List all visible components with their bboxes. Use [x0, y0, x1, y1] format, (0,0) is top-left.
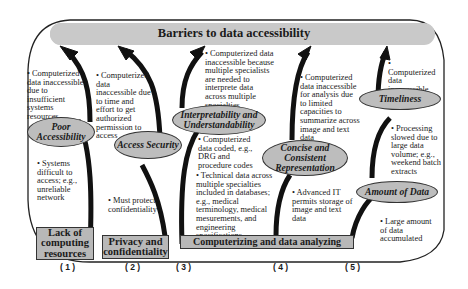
note-4-bottom: • Advanced IT permits storage of image a…	[292, 189, 354, 223]
note-1-bottom: • Systems difficult to access; e.g., unr…	[37, 160, 81, 203]
box-computerizing: Computerizing and data analyzing	[180, 235, 354, 249]
diagram-title: Barriers to data accessibility	[0, 26, 468, 41]
oval-concise-representation: Concise and Consistent Representation	[262, 140, 348, 176]
note-2-bottom: • Must protect confidentiality	[108, 197, 162, 214]
note-3-mid: • Computerized data coded, e.g., DRG and…	[198, 136, 264, 170]
oval-timeliness: Timeliness	[359, 88, 441, 110]
note-5-bottom: • Large amount of data accumulated	[380, 218, 438, 244]
box-privacy: Privacy and confidentiality	[102, 235, 169, 259]
note-4-top: • Computerized data inaccessible for ana…	[300, 74, 360, 143]
oval-access-security: Access Security	[114, 131, 182, 159]
column-number-3: ( 3 )	[176, 262, 191, 272]
note-1-top: • Computerized data inaccessible due to …	[27, 70, 85, 122]
box-lack-of-computing: Lack of computing resources	[36, 227, 94, 260]
column-number-4: ( 4 )	[273, 262, 288, 272]
oval-poor-accessibility: Poor Accessibility	[27, 117, 95, 147]
note-3-bottom: • Technical data across multiple special…	[196, 172, 276, 241]
note-3-top: • Computerized data inaccessible because…	[205, 50, 275, 110]
column-number-5: ( 5 )	[345, 262, 360, 272]
oval-interpretability: Interpretability and Understandability	[172, 105, 266, 135]
column-number-2: ( 2 )	[125, 262, 140, 272]
note-5-mid: • Processing slowed due to large data vo…	[391, 125, 441, 177]
column-number-1: ( 1 )	[60, 262, 75, 272]
oval-amount-of-data: Amount of Data	[356, 181, 438, 203]
